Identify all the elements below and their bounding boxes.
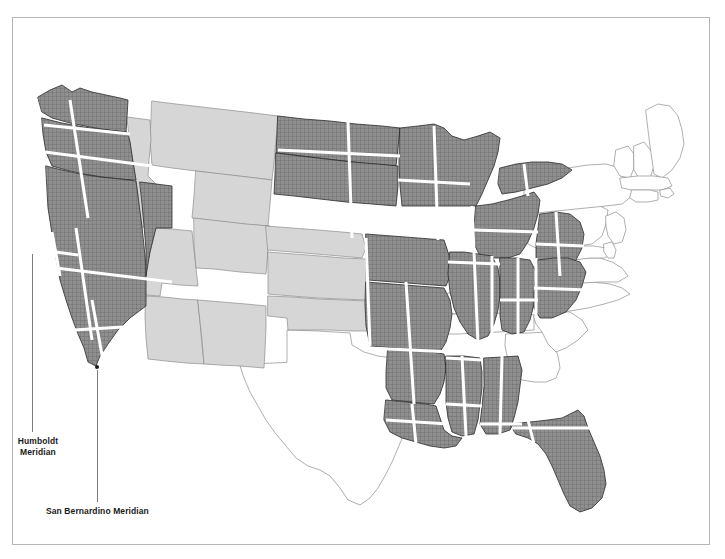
humboldt-meridian-label: HumboldtMeridian: [12, 436, 64, 458]
san-bernardino-anchor-dot: [95, 365, 99, 369]
us-map: [0, 0, 725, 559]
san-bernardino-meridian-label: San Bernardino Meridian: [46, 506, 149, 517]
humboldt-label-line2: Meridian: [20, 447, 56, 457]
humboldt-label-line1: Humboldt: [18, 436, 58, 446]
map-page: HumboldtMeridian San Bernardino Meridian: [0, 0, 725, 559]
humboldt-leader-line: [32, 254, 33, 432]
san-bernardino-leader-line: [97, 370, 98, 502]
